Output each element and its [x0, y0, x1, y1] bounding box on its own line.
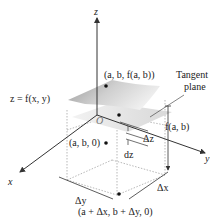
- surface: [68, 80, 160, 110]
- surface-label: z = f(x, y): [10, 94, 50, 104]
- x-axis-label: x: [8, 177, 12, 187]
- point-shifted: [117, 192, 121, 196]
- point-base-label: (a, b, 0): [69, 138, 100, 148]
- point-base: [104, 141, 108, 145]
- point-shifted-label: (a + Δx, b + Δy, 0): [78, 207, 153, 217]
- diagram-canvas: [0, 0, 217, 222]
- point-on-plane: [117, 113, 121, 117]
- delta-x-label: Δx: [157, 183, 168, 193]
- tangent-plane-diagram: z x y O (a, b, f(a, b)) z = f(x, y) Tang…: [0, 0, 217, 222]
- point-top: [104, 84, 108, 88]
- point-top-label: (a, b, f(a, b)): [104, 70, 155, 80]
- height-label: f(a, b): [165, 122, 189, 132]
- tangent-label-1: Tangent: [176, 70, 208, 80]
- delta-z-label: Δz: [143, 134, 154, 144]
- origin-label: O: [96, 116, 103, 126]
- delta-y-label: Δy: [75, 196, 86, 206]
- tangent-plane: [72, 103, 172, 132]
- tangent-label-2: plane: [184, 82, 206, 92]
- dz-label: dz: [124, 150, 133, 160]
- y-axis-label: y: [205, 154, 209, 164]
- z-axis-label: z: [94, 7, 98, 17]
